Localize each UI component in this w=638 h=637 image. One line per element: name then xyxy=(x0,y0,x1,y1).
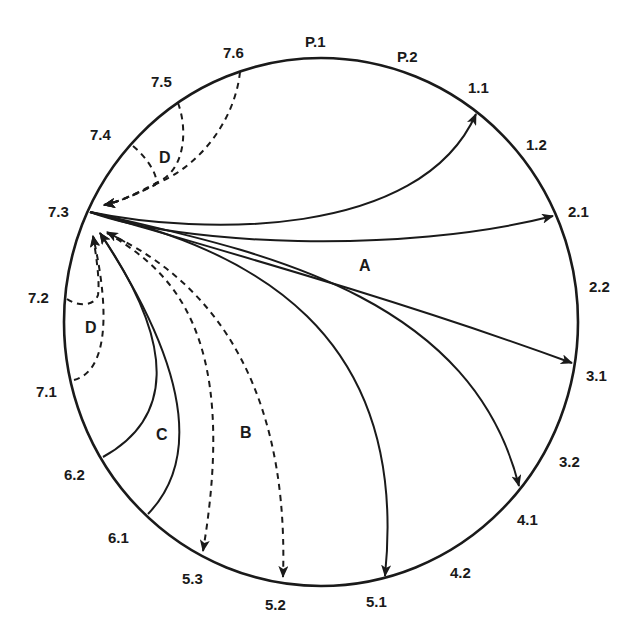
label-7.3: 7.3 xyxy=(48,203,69,220)
region-label-d-lower: D xyxy=(85,319,97,336)
label-7.6: 7.6 xyxy=(223,44,244,61)
group-c-edges xyxy=(100,233,179,514)
label-5.2: 5.2 xyxy=(265,596,286,613)
label-5.3: 5.3 xyxy=(182,570,203,587)
label-4.2: 4.2 xyxy=(450,564,471,581)
label-6.1: 6.1 xyxy=(108,529,129,546)
region-labels: A B C D D xyxy=(85,149,371,443)
outer-circle xyxy=(64,58,578,586)
label-p1: P.1 xyxy=(305,33,326,50)
edge-7.1-to-7.3 xyxy=(74,236,104,380)
edge-6.1-to-7.3 xyxy=(100,233,179,514)
region-label-c: C xyxy=(156,426,168,443)
group-d-upper-edges xyxy=(104,72,240,205)
label-6.2: 6.2 xyxy=(64,466,85,483)
label-7.4: 7.4 xyxy=(90,126,112,143)
edge-7.3-to-3.1 xyxy=(90,212,572,363)
label-1.2: 1.2 xyxy=(526,136,547,153)
point-labels: P.1 P.2 1.1 1.2 2.1 2.2 3.1 3.2 4.1 4.2 … xyxy=(28,33,610,613)
edge-7.2-to-7.3 xyxy=(67,236,99,304)
edge-7.3-to-1.1 xyxy=(90,114,476,225)
label-1.1: 1.1 xyxy=(468,79,489,96)
label-p2: P.2 xyxy=(397,48,418,65)
arrowhead-b-into-7.3 xyxy=(107,232,125,242)
edge-7.3-to-5.1 xyxy=(90,212,388,576)
group-a-edges xyxy=(90,114,572,576)
label-7.1: 7.1 xyxy=(36,383,57,400)
edge-7.4-to-7.3 xyxy=(104,146,156,205)
region-label-d-upper: D xyxy=(159,149,171,166)
edge-7.6-to-7.3 xyxy=(104,72,240,205)
circular-flow-diagram: P.1 P.2 1.1 1.2 2.1 2.2 3.1 3.2 4.1 4.2 … xyxy=(0,0,638,637)
label-3.2: 3.2 xyxy=(559,453,580,470)
label-5.1: 5.1 xyxy=(366,593,387,610)
group-b-edges xyxy=(107,232,283,577)
edge-7.3-to-5.2 xyxy=(107,233,283,577)
region-label-a: A xyxy=(359,257,371,274)
label-7.5: 7.5 xyxy=(151,73,172,90)
edge-6.2-to-7.3 xyxy=(100,233,157,457)
edge-7.3-to-5.3 xyxy=(107,233,213,551)
label-3.1: 3.1 xyxy=(586,367,607,384)
label-2.2: 2.2 xyxy=(589,278,610,295)
label-2.1: 2.1 xyxy=(568,203,589,220)
label-4.1: 4.1 xyxy=(517,511,538,528)
label-7.2: 7.2 xyxy=(28,289,49,306)
region-label-b: B xyxy=(240,424,252,441)
